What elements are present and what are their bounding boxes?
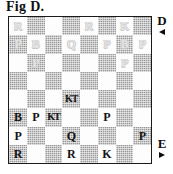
board-square-c5 bbox=[45, 72, 63, 90]
board-square-d7: Q bbox=[62, 35, 80, 53]
board-square-b7: B bbox=[27, 35, 45, 53]
board-square-a8: R bbox=[9, 17, 27, 35]
piece-black-r: R bbox=[67, 148, 75, 160]
board-square-f5 bbox=[98, 72, 116, 90]
board-square-e5 bbox=[80, 72, 98, 90]
board-square-e6 bbox=[80, 54, 98, 72]
piece-white-p: P bbox=[103, 38, 110, 50]
board-square-d3 bbox=[62, 108, 80, 126]
board-square-c7 bbox=[45, 35, 63, 53]
board-square-c2 bbox=[45, 127, 63, 145]
triangle-left-icon bbox=[159, 29, 165, 35]
piece-white-p: P bbox=[14, 38, 21, 50]
board-square-h2: P bbox=[133, 127, 151, 145]
board-square-h4 bbox=[133, 90, 151, 108]
piece-black-q: Q bbox=[67, 130, 76, 142]
triangle-right-icon bbox=[159, 152, 165, 158]
board-square-f1: K bbox=[98, 145, 116, 163]
board-square-g4 bbox=[116, 90, 134, 108]
board-square-d2: Q bbox=[62, 127, 80, 145]
piece-white-q: Q bbox=[67, 38, 76, 50]
board-square-h3 bbox=[133, 108, 151, 126]
piece-white-p: P bbox=[121, 57, 128, 69]
board-square-d5 bbox=[62, 72, 80, 90]
board-square-g7: B bbox=[116, 35, 134, 53]
chessboard-grid: RRKPBQPBPPPKTBPKTPPQPRRK bbox=[9, 17, 151, 163]
piece-white-p: P bbox=[139, 38, 146, 50]
board-square-b1 bbox=[27, 145, 45, 163]
board-square-a1: R bbox=[9, 145, 27, 163]
chess-figure: Fig D. RRKPBQPBPPPKTBPKTPPQPRRK D E bbox=[0, 0, 173, 174]
piece-black-b: B bbox=[14, 111, 22, 123]
piece-black-p: P bbox=[32, 111, 39, 123]
board-square-g1 bbox=[116, 145, 134, 163]
board-square-a4 bbox=[9, 90, 27, 108]
piece-black-kt: KT bbox=[47, 111, 59, 123]
board-square-e8: R bbox=[80, 17, 98, 35]
board-square-g3 bbox=[116, 108, 134, 126]
board-square-b3: P bbox=[27, 108, 45, 126]
board-square-f7: P bbox=[98, 35, 116, 53]
piece-white-r: R bbox=[14, 20, 22, 32]
board-square-f6 bbox=[98, 54, 116, 72]
board-square-a7: P bbox=[9, 35, 27, 53]
piece-black-r: R bbox=[14, 148, 22, 160]
piece-black-p: P bbox=[14, 130, 21, 142]
board-square-c4 bbox=[45, 90, 63, 108]
board-square-f4 bbox=[98, 90, 116, 108]
board-square-g5 bbox=[116, 72, 134, 90]
board-square-c6 bbox=[45, 54, 63, 72]
board-square-c1 bbox=[45, 145, 63, 163]
section-marker-d-label: D bbox=[157, 14, 166, 27]
board-square-h7: P bbox=[133, 35, 151, 53]
board-square-d8 bbox=[62, 17, 80, 35]
piece-black-kt: KT bbox=[65, 93, 77, 105]
board-square-a3: B bbox=[9, 108, 27, 126]
section-marker-e-label: E bbox=[158, 137, 167, 150]
board-square-d4: KT bbox=[62, 90, 80, 108]
board-square-b6: P bbox=[27, 54, 45, 72]
board-square-b2 bbox=[27, 127, 45, 145]
board-square-f8 bbox=[98, 17, 116, 35]
board-square-a6 bbox=[9, 54, 27, 72]
board-square-f3: P bbox=[98, 108, 116, 126]
chessboard: RRKPBQPBPPPKTBPKTPPQPRRK bbox=[8, 16, 152, 164]
piece-white-r: R bbox=[85, 20, 93, 32]
board-square-d1: R bbox=[62, 145, 80, 163]
piece-white-b: B bbox=[121, 38, 129, 50]
board-square-b5 bbox=[27, 72, 45, 90]
board-square-a5 bbox=[9, 72, 27, 90]
board-square-h5 bbox=[133, 72, 151, 90]
board-square-e2 bbox=[80, 127, 98, 145]
board-square-e4 bbox=[80, 90, 98, 108]
section-marker-e: E bbox=[153, 137, 171, 158]
piece-black-k: K bbox=[102, 148, 111, 160]
board-square-a2: P bbox=[9, 127, 27, 145]
board-square-h6 bbox=[133, 54, 151, 72]
piece-white-b: B bbox=[32, 38, 40, 50]
board-square-c3: KT bbox=[45, 108, 63, 126]
board-square-d6 bbox=[62, 54, 80, 72]
board-square-g2 bbox=[116, 127, 134, 145]
board-square-h1 bbox=[133, 145, 151, 163]
board-square-g6: P bbox=[116, 54, 134, 72]
piece-black-p: P bbox=[139, 130, 146, 142]
board-square-e3 bbox=[80, 108, 98, 126]
section-marker-d: D bbox=[153, 14, 171, 35]
board-square-e1 bbox=[80, 145, 98, 163]
board-square-h8 bbox=[133, 17, 151, 35]
piece-white-k: K bbox=[120, 20, 129, 32]
board-square-b8 bbox=[27, 17, 45, 35]
board-square-e7 bbox=[80, 35, 98, 53]
board-square-b4 bbox=[27, 90, 45, 108]
figure-caption: Fig D. bbox=[6, 0, 44, 15]
board-square-c8 bbox=[45, 17, 63, 35]
board-square-f2 bbox=[98, 127, 116, 145]
board-square-g8: K bbox=[116, 17, 134, 35]
piece-black-p: P bbox=[103, 111, 110, 123]
piece-white-p: P bbox=[32, 57, 39, 69]
